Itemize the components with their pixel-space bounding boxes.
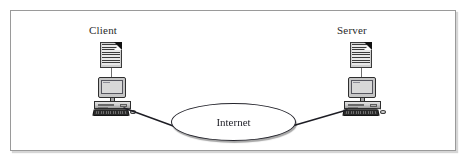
- server-computer-icon: [343, 77, 383, 117]
- figure-canvas: Client: [0, 0, 472, 165]
- client-document-icon: [100, 42, 122, 68]
- internet-ellipse: Internet: [171, 103, 296, 141]
- document-fold-corner: [364, 42, 372, 50]
- computer-base: [94, 101, 131, 109]
- mouse: [130, 110, 136, 114]
- server-label: Server: [337, 24, 367, 36]
- drive-bay: [370, 104, 377, 107]
- keyboard-keys: [96, 111, 126, 114]
- floppy-slot: [348, 104, 364, 106]
- mouse-cord: [126, 108, 131, 112]
- internet-label: Internet: [172, 116, 295, 128]
- keyboard: [342, 109, 379, 116]
- base-detail-line: [348, 107, 358, 108]
- mouse-cord: [376, 108, 381, 112]
- client-computer-icon: [93, 77, 133, 117]
- computer-base: [344, 101, 381, 109]
- mouse: [380, 110, 386, 114]
- keyboard-keys: [346, 111, 376, 114]
- floppy-slot: [98, 104, 114, 106]
- keyboard: [92, 109, 129, 116]
- server-document-icon: [350, 42, 372, 68]
- client-label: Client: [89, 24, 117, 36]
- base-detail-line: [98, 107, 108, 108]
- monitor-screen: [351, 80, 373, 94]
- monitor-screen: [101, 80, 123, 94]
- drive-bay: [120, 104, 127, 107]
- document-fold-corner: [114, 42, 122, 50]
